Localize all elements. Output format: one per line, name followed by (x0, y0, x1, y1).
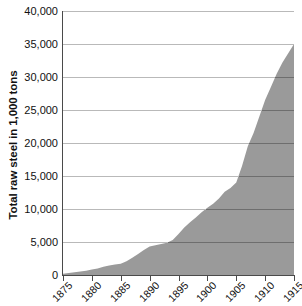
x-axis-tick-label: 1890 (136, 279, 161, 304)
y-axis-tick-label: 0 (2, 269, 58, 281)
gridline-over-fill (249, 143, 294, 144)
gridline-over-fill (262, 110, 294, 111)
gridline (63, 209, 206, 210)
steel-production-area-chart: Total raw steel in 1,000 tons 05,00010,0… (0, 0, 302, 306)
gridline-over-fill (206, 209, 294, 210)
gridline (63, 11, 294, 12)
gridline-over-fill (275, 77, 294, 78)
y-axis-tick-label: 35,000 (2, 38, 58, 50)
x-axis-tick-label: 1885 (107, 279, 132, 304)
gridline (63, 44, 294, 45)
x-axis-tick-label: 1880 (78, 279, 103, 304)
y-axis-tick-label: 25,000 (2, 104, 58, 116)
gridline-over-fill (168, 242, 294, 243)
gridline (63, 242, 168, 243)
y-axis-tick-label: 30,000 (2, 71, 58, 83)
gridline (63, 110, 262, 111)
x-axis-tick-label: 1910 (252, 279, 277, 304)
y-axis-tick-label-group: 05,00010,00015,00020,00025,00030,00035,0… (0, 0, 58, 306)
gridline (63, 143, 249, 144)
y-axis-tick-label: 5,000 (2, 236, 58, 248)
y-axis-tick-label: 10,000 (2, 203, 58, 215)
x-axis-tick-label: 1905 (223, 279, 248, 304)
gridline (63, 77, 275, 78)
x-axis-tick-label: 1895 (165, 279, 190, 304)
gridline (63, 176, 239, 177)
x-axis-tick-label: 1915 (280, 279, 302, 304)
y-axis-tick-label: 15,000 (2, 170, 58, 182)
y-axis-tick-label: 40,000 (2, 5, 58, 17)
y-axis-tick-label: 20,000 (2, 137, 58, 149)
x-axis-tick-label: 1900 (194, 279, 219, 304)
gridline-over-fill (239, 176, 294, 177)
